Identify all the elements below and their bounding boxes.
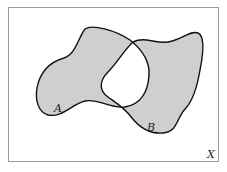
universe-label: X [206, 148, 216, 161]
set-b-label: B [146, 121, 155, 134]
venn-diagram: A B X [0, 0, 227, 172]
set-a-label: A [53, 102, 62, 115]
